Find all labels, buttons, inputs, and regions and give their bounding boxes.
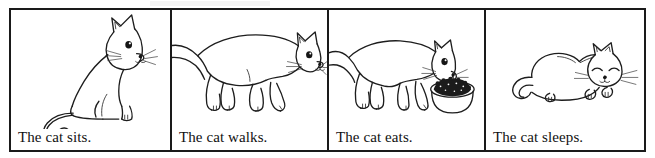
cat-sleeping-illustration [486, 10, 644, 129]
scan-artifact [150, 1, 270, 6]
panel-cat-sits[interactable]: The cat sits. [11, 10, 170, 150]
cat-eating-svg [329, 10, 484, 129]
cat-sleeping-svg [486, 10, 644, 129]
panel-caption: The cat eats. [329, 129, 484, 150]
cat-walking-illustration [172, 10, 327, 129]
panel-caption: The cat sits. [11, 129, 170, 150]
cat-sequence-strip: The cat sits. [0, 0, 655, 158]
cat-eating-illustration [329, 10, 484, 129]
panel-cat-sleeps[interactable]: The cat sleeps. [484, 10, 644, 150]
cat-sitting-svg [11, 10, 170, 129]
panel-cat-walks[interactable]: The cat walks. [170, 10, 327, 150]
sequence-frame: The cat sits. [9, 8, 646, 152]
cat-walking-svg [172, 10, 327, 129]
cat-sitting-illustration [11, 10, 170, 129]
panel-cat-eats[interactable]: The cat eats. [327, 10, 484, 150]
panel-caption: The cat sleeps. [486, 129, 644, 150]
panel-caption: The cat walks. [172, 129, 327, 150]
